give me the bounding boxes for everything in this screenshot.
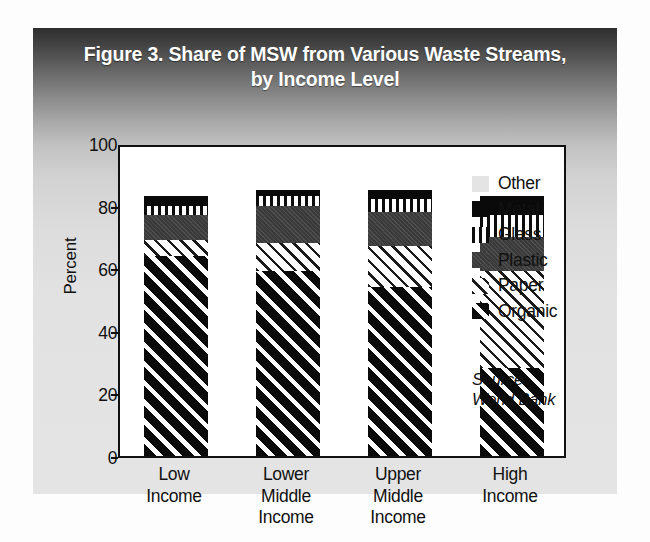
stacked-bar (368, 143, 432, 456)
y-axis-tick-mark (111, 207, 118, 209)
bar-segment-paper (144, 240, 208, 256)
bar-segment-plastic (144, 215, 208, 240)
x-axis-label-line: Lower (224, 464, 348, 486)
figure-page: Figure 3. Share of MSW from Various Wast… (0, 0, 650, 542)
x-axis-label-lower-middle-income: LowerMiddleIncome (224, 464, 348, 529)
x-axis-label-high-income: HighIncome (448, 464, 572, 507)
bar-segment-organic (256, 271, 320, 456)
legend-swatch-metal-icon (472, 201, 489, 217)
legend-label: Paper (498, 275, 543, 296)
bar-segment-metal (144, 196, 208, 205)
y-axis-tick-mark (111, 394, 118, 396)
plot-frame: OtherMetalGlassPlasticPaperOrganic Sourc… (118, 145, 566, 458)
y-axis-tick-labels: 100806040200 (71, 28, 117, 494)
legend-label: Other (498, 173, 540, 194)
legend-label: Plastic (498, 250, 547, 271)
source-label: Source: (472, 369, 555, 389)
legend-label: Organic (498, 301, 557, 322)
bar-segment-plastic (256, 206, 320, 244)
x-axis-label-line: Middle (336, 486, 460, 508)
legend-swatch-glass-icon (472, 227, 489, 243)
x-axis-label-upper-middle-income: UpperMiddleIncome (336, 464, 460, 529)
y-axis-tick-mark (111, 269, 118, 271)
x-axis-label-line: Income (112, 486, 236, 508)
bar-segment-paper (368, 246, 432, 287)
legend-swatch-organic-icon (472, 303, 489, 319)
x-axis-label-line: Upper (336, 464, 460, 486)
legend-item-metal[interactable]: Metal (472, 197, 590, 223)
bar-segment-organic (368, 287, 432, 456)
bar-segment-glass (256, 196, 320, 205)
bar-segment-metal (368, 190, 432, 199)
legend-item-plastic[interactable]: Plastic (472, 248, 590, 274)
chart-legend: OtherMetalGlassPlasticPaperOrganic (472, 171, 590, 324)
legend-item-other[interactable]: Other (472, 171, 590, 197)
bar-segment-organic (144, 256, 208, 456)
x-axis-label-line: Low (112, 464, 236, 486)
bar-segment-glass (144, 206, 208, 215)
stacked-bar (144, 143, 208, 456)
legend-label: Glass (498, 224, 541, 245)
x-axis-label-line: High (448, 464, 572, 486)
legend-item-organic[interactable]: Organic (472, 299, 590, 325)
bar-segment-glass (368, 199, 432, 212)
legend-item-glass[interactable]: Glass (472, 222, 590, 248)
legend-swatch-paper-icon (472, 278, 489, 294)
source-value: World Bank (472, 389, 555, 409)
bar-segment-paper (256, 243, 320, 271)
source-note: Source: World Bank (472, 369, 555, 409)
x-axis-label-line: Income (224, 507, 348, 529)
figure-panel: Figure 3. Share of MSW from Various Wast… (33, 28, 617, 494)
legend-item-paper[interactable]: Paper (472, 273, 590, 299)
legend-swatch-other-icon (472, 176, 489, 192)
bar-segment-plastic (368, 212, 432, 246)
stacked-bar (256, 143, 320, 456)
y-axis-tick-mark (111, 332, 118, 334)
chart-plot-area: Percent 100806040200 OtherMetalGlassPlas… (33, 28, 617, 494)
x-axis-label-line: Middle (224, 486, 348, 508)
x-axis-label-line: Income (336, 507, 460, 529)
y-axis-tick-mark (111, 457, 118, 459)
legend-label: Metal (498, 199, 539, 220)
bar-segment-metal (256, 190, 320, 196)
x-axis-label-low-income: LowIncome (112, 464, 236, 507)
x-axis-label-line: Income (448, 486, 572, 508)
legend-swatch-plastic-icon (472, 252, 489, 268)
y-axis-tick-label: 100 (77, 135, 117, 156)
